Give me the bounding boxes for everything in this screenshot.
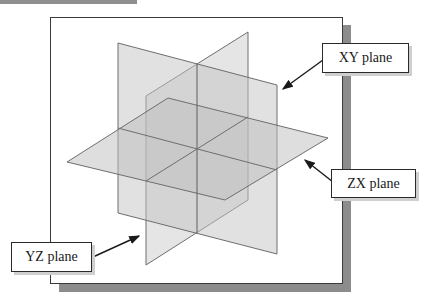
zx-plane-label: ZX plane bbox=[331, 169, 416, 198]
xy-plane-label-text: XY plane bbox=[339, 50, 393, 66]
xy-plane-label: XY plane bbox=[322, 43, 409, 73]
yz-arrow bbox=[93, 236, 139, 257]
zx-arrow bbox=[305, 160, 333, 182]
yz-plane-label-text: YZ plane bbox=[25, 249, 77, 265]
zx-plane-label-text: ZX plane bbox=[347, 176, 399, 192]
xy-arrow bbox=[283, 60, 323, 89]
yz-plane-label: YZ plane bbox=[11, 242, 92, 272]
